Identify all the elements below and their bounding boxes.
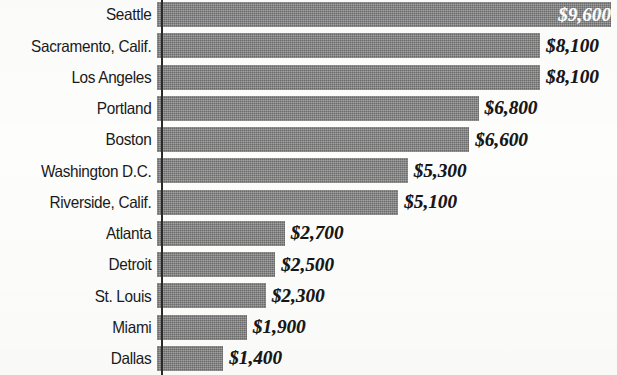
category-label: Boston: [11, 131, 157, 148]
bar-value-label: $2,300: [272, 286, 325, 305]
plot-area: $5,100: [157, 187, 617, 218]
bar-value-label: $1,900: [253, 317, 306, 336]
bar-value-label: $5,100: [404, 192, 457, 211]
category-label: Washington D.C.: [11, 163, 157, 180]
plot-area: $9,600: [157, 0, 617, 30]
bar-row: Detroit$2,500: [0, 249, 617, 280]
bar-row: Los Angeles$8,100: [0, 62, 617, 93]
bar-row: Dallas$1,400: [0, 343, 617, 374]
bar-value-label: $5,300: [414, 161, 467, 180]
bar-row: Sacramento, Calif.$8,100: [0, 30, 617, 61]
bar: [157, 96, 479, 121]
plot-area: $2,500: [157, 249, 617, 280]
category-label: Miami: [11, 319, 157, 336]
bar: [157, 346, 223, 371]
bar: [157, 65, 540, 90]
bar: [157, 283, 266, 308]
plot-area: $2,300: [157, 280, 617, 311]
bar-row: Atlanta$2,700: [0, 218, 617, 249]
plot-area: $2,700: [157, 218, 617, 249]
category-label: Portland: [11, 100, 157, 117]
bar-row: Portland$6,800: [0, 93, 617, 124]
category-label: Dallas: [11, 350, 157, 367]
bar-value-label: $9,600: [558, 5, 611, 24]
plot-area: $1,400: [157, 343, 617, 374]
bar-row: Washington D.C.$5,300: [0, 155, 617, 186]
bar-value-label: $6,600: [475, 130, 528, 149]
bar-row: Miami$1,900: [0, 312, 617, 343]
bar-row: St. Louis$2,300: [0, 280, 617, 311]
category-label: Detroit: [11, 256, 157, 273]
plot-area: $8,100: [157, 30, 617, 61]
bar: [157, 127, 469, 152]
bar: [157, 33, 540, 58]
bar: [157, 221, 285, 246]
plot-area: $5,300: [157, 155, 617, 186]
plot-area: $6,800: [157, 93, 617, 124]
bar-value-label: $6,800: [485, 98, 538, 117]
bar-value-label: $1,400: [229, 348, 282, 367]
bar-value-label: $2,700: [291, 223, 344, 242]
bar: [157, 190, 398, 215]
bar-value-label: $8,100: [546, 36, 599, 55]
bar: [157, 315, 247, 340]
bar-chart: Seattle$9,600Sacramento, Calif.$8,100Los…: [0, 0, 617, 375]
bar-row: Seattle$9,600: [0, 0, 617, 30]
plot-area: $8,100: [157, 62, 617, 93]
value-axis-line: [161, 0, 163, 375]
plot-area: $6,600: [157, 124, 617, 155]
bar-row: Boston$6,600: [0, 124, 617, 155]
category-label: St. Louis: [11, 288, 157, 305]
bar-row: Riverside, Calif.$5,100: [0, 187, 617, 218]
bar: [157, 158, 408, 183]
category-label: Seattle: [11, 6, 157, 23]
category-label: Atlanta: [11, 225, 157, 242]
category-label: Sacramento, Calif.: [11, 38, 157, 55]
category-label: Los Angeles: [11, 69, 157, 86]
bar: [157, 2, 611, 27]
plot-area: $1,900: [157, 312, 617, 343]
bar-value-label: $2,500: [281, 255, 334, 274]
bar: [157, 252, 275, 277]
category-label: Riverside, Calif.: [11, 194, 157, 211]
bar-value-label: $8,100: [546, 67, 599, 86]
